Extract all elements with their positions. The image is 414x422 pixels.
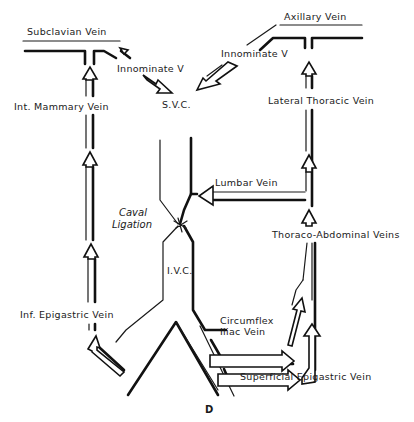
collateral-venous-circulation-diagram: Subclavian Vein Axillary Vein Innominate…	[0, 0, 414, 422]
label-superficial-epigastric-vein: Superficial Epigastric Vein	[240, 371, 372, 382]
panel-label: D	[205, 404, 213, 415]
label-circumflex-iliac-line1: Circumflex	[220, 315, 274, 326]
up-arrow-icon	[302, 155, 316, 172]
innominate-right-to-svc-arrow-icon	[197, 62, 237, 90]
label-svc: S.V.C.	[162, 99, 191, 110]
label-inf-epigastric-vein: Inf. Epigastric Vein	[20, 309, 114, 320]
innominate-left-arrow-icon	[120, 48, 130, 58]
label-lumbar-vein: Lumbar Vein	[215, 177, 278, 188]
up-arrow-icon	[83, 67, 97, 80]
up-arrow-icon	[83, 152, 97, 167]
label-lateral-thoracic-vein: Lateral Thoracic Vein	[268, 95, 374, 106]
label-innominate-left: Innominate V	[117, 63, 184, 74]
lumbar-vein-channel	[199, 186, 305, 205]
innominate-left-to-svc-arrow-icon	[143, 75, 172, 93]
label-axillary-vein: Axillary Vein	[284, 11, 347, 22]
inf-epigastric-curved-arrow-icon	[88, 336, 124, 376]
up-arrow-icon	[302, 62, 316, 76]
axillary-vein-structure	[247, 25, 362, 50]
label-subclavian-vein: Subclavian Vein	[27, 26, 107, 37]
label-thoraco-abdominal-veins: Thoraco-Abdominal Veins	[271, 229, 400, 240]
label-caval-ligation-line2: Ligation	[112, 219, 152, 230]
label-innominate-right: Innominate V	[221, 48, 288, 59]
label-circumflex-iliac-line2: Iliac Vein	[220, 326, 265, 337]
up-arrow-icon	[302, 210, 316, 226]
up-arrow-icon	[84, 244, 98, 259]
label-int-mammary-vein: Int. Mammary Vein	[14, 101, 109, 112]
label-ivc: I.V.C.	[167, 265, 193, 276]
subclavian-vein-structure	[23, 41, 120, 64]
int-mammary-vein-channel	[86, 80, 95, 330]
label-caval-ligation-line1: Caval	[119, 207, 147, 218]
